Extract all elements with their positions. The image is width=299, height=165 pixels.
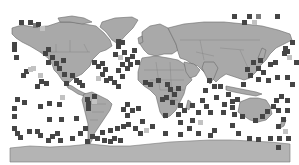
grid-cell	[247, 136, 252, 141]
grid-cell	[258, 58, 263, 63]
grid-cell	[268, 62, 273, 67]
grid-cell	[214, 95, 219, 100]
grid-cell	[70, 73, 75, 78]
grid-cell	[241, 82, 246, 87]
grid-cell	[172, 92, 177, 97]
grid-cell	[208, 133, 213, 138]
grid-cell	[285, 98, 290, 103]
grid-cell	[92, 94, 97, 99]
grid-cell	[120, 62, 125, 67]
grid-cell	[46, 138, 51, 143]
grid-cell	[128, 62, 133, 67]
grid-cell	[256, 137, 261, 142]
grid-cell	[240, 114, 245, 119]
grid-cell	[58, 138, 63, 143]
grid-cell	[100, 130, 105, 135]
grid-cell	[80, 83, 85, 88]
grid-cell	[113, 52, 118, 57]
grid-cell	[18, 135, 23, 140]
grid-cell	[148, 82, 153, 87]
grid-cell	[130, 108, 135, 113]
grid-cell	[140, 119, 145, 124]
grid-cell	[61, 58, 66, 63]
grid-cell	[286, 136, 291, 141]
grid-cell	[132, 48, 137, 53]
grid-cell	[252, 20, 257, 25]
grid-cell	[21, 73, 26, 78]
grid-cell	[294, 60, 299, 65]
grid-cell	[125, 113, 130, 118]
grid-cell	[15, 97, 20, 102]
grid-cell	[78, 131, 83, 136]
grid-cell	[178, 132, 183, 137]
grid-cell	[248, 73, 253, 78]
grid-cell	[285, 49, 290, 54]
grid-cell	[135, 60, 140, 65]
grid-cell	[283, 129, 288, 134]
grid-cell	[277, 136, 282, 141]
grid-cell	[90, 134, 95, 139]
grid-cell	[251, 60, 256, 65]
grid-cell	[168, 87, 173, 92]
grid-cell	[118, 138, 123, 143]
grid-cell	[92, 99, 97, 104]
grid-cell	[12, 47, 17, 52]
grid-cell	[170, 100, 175, 105]
grid-cell	[165, 82, 170, 87]
grid-cell	[136, 106, 141, 111]
grid-cell	[125, 102, 130, 107]
grid-cell	[116, 68, 121, 73]
grid-cell	[39, 79, 44, 84]
grid-cell	[27, 129, 32, 134]
grid-cell	[274, 98, 279, 103]
grid-cell	[47, 101, 52, 106]
grid-cell	[22, 100, 27, 105]
grid-cell	[279, 94, 284, 99]
grid-cell	[138, 131, 143, 136]
grid-cell	[247, 14, 252, 19]
grid-cell	[14, 55, 19, 60]
grid-cell	[232, 112, 237, 117]
grid-cell	[120, 40, 125, 45]
grid-cell	[102, 138, 107, 143]
grid-cell	[230, 123, 235, 128]
grid-cell	[116, 84, 121, 89]
grid-cell	[273, 60, 278, 65]
grid-cell	[115, 126, 120, 131]
grid-cell	[31, 66, 36, 71]
grid-cell	[176, 112, 181, 117]
grid-cell	[59, 117, 64, 122]
grid-cell	[40, 26, 45, 31]
grid-cell	[163, 131, 168, 136]
grid-cell	[60, 95, 65, 100]
grid-cell	[176, 86, 181, 91]
grid-cell	[83, 126, 88, 131]
grid-cell	[100, 61, 105, 66]
grid-cell	[130, 54, 135, 59]
grid-cell	[57, 102, 62, 107]
grid-cell	[108, 128, 113, 133]
grid-cell	[281, 117, 286, 122]
grid-cell	[150, 124, 155, 129]
grid-cell	[276, 145, 281, 150]
grid-cell	[118, 55, 123, 60]
grid-cell	[46, 60, 51, 65]
grid-cell	[144, 128, 149, 133]
grid-cell	[261, 70, 266, 75]
grid-cell	[235, 97, 240, 102]
grid-cell	[12, 106, 17, 111]
grid-cell	[230, 99, 235, 104]
grid-cell	[190, 118, 195, 123]
grid-cell	[112, 136, 117, 141]
grid-cell	[86, 106, 91, 111]
grid-cell	[232, 14, 237, 19]
grid-cell	[54, 61, 59, 66]
grid-cell	[121, 124, 126, 129]
grid-cell	[28, 20, 33, 25]
grid-cell	[256, 77, 261, 82]
grid-cell	[285, 75, 290, 80]
grid-cell	[208, 110, 213, 115]
grid-cell	[203, 88, 208, 93]
grid-cell	[271, 104, 276, 109]
grid-cell	[212, 84, 217, 89]
